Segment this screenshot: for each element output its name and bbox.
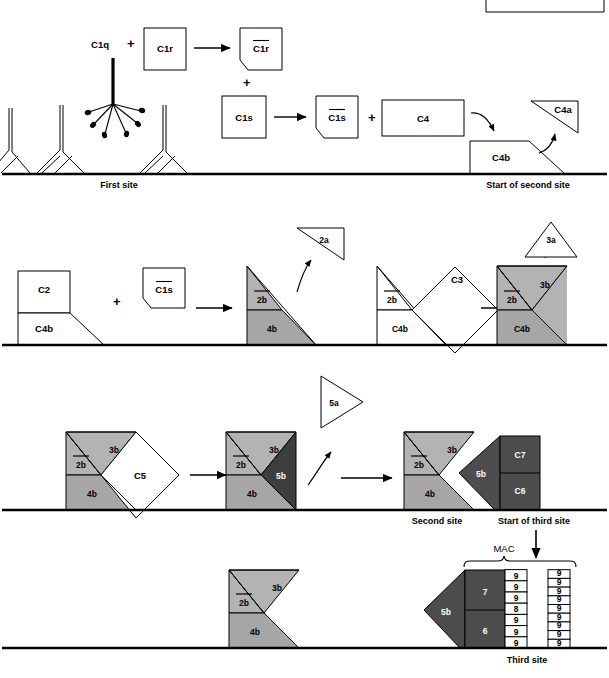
c1s-activated-row2-label: C1s — [155, 284, 172, 295]
c4b2b3b-complex: 2b 3b C4b — [497, 266, 567, 345]
arrow-c4b-to-c4a — [539, 134, 555, 153]
c4b-label: C4b — [492, 152, 510, 163]
c2-label: C2 — [38, 284, 50, 295]
plus-sign-2: + — [243, 75, 251, 90]
c5-label: C5 — [134, 470, 147, 481]
c3b-label-row3a: 3b — [109, 445, 119, 455]
complement-cascade-figure: C1q + C1r C1r + C1s C1s — [0, 0, 609, 678]
top-right-box-fragment — [486, 0, 604, 12]
c4a-fragment: C4a — [531, 101, 578, 133]
c2b-label-row3b: 2b — [236, 460, 246, 470]
figure-canvas: C1q + C1r C1r + C1s C1s — [0, 0, 609, 678]
row3-group: 2b 3b 4b C5 2b 3b 4b 5b 5a — [2, 376, 607, 558]
c1s-box: C1s — [222, 96, 266, 138]
c3b-label-row3c: 3b — [447, 445, 457, 455]
row4-group: 2b 3b 4b MAC 5b 7 6 9998999 999999999 Th… — [2, 543, 607, 665]
mac-c9-cell-label: 9 — [514, 571, 519, 581]
mac-c9-cell-label: 9 — [514, 593, 519, 603]
c1s-activated-row2: C1s — [143, 268, 185, 308]
c4b-label-row2c: C4b — [514, 324, 530, 334]
c5b-label-row3c: 5b — [476, 469, 486, 479]
c1s-activated-label: C1s — [328, 112, 345, 123]
c2b-label-row2c: 2b — [507, 295, 517, 305]
row1-group: C1q + C1r C1r + C1s C1s — [0, 28, 607, 190]
c4b-label-row2b: C4b — [392, 324, 408, 334]
c2b-label-row4: 2b — [239, 598, 249, 608]
c5b-label-row3b: 5b — [276, 471, 286, 481]
c4b-label-row3b: 4b — [247, 489, 257, 499]
c6-label-row3: C6 — [515, 486, 526, 496]
c2a-label: 2a — [319, 235, 329, 245]
c4b-label-row3c: 4b — [425, 489, 435, 499]
start-third-site-label: Start of third site — [498, 516, 570, 526]
c2a-fragment: 2a — [297, 228, 344, 260]
c3b-label-row2: 3b — [540, 280, 550, 290]
c1s-label: C1s — [235, 112, 252, 123]
c4a-label: C4a — [554, 104, 572, 115]
plus-sign-row2: + — [113, 294, 121, 309]
c1q-label: C1q — [91, 39, 109, 50]
mac-c9-cell-label: 8 — [514, 604, 519, 614]
c1q-molecule — [84, 58, 146, 139]
start-second-site-label: Start of second site — [486, 180, 570, 190]
c1r-label: C1r — [157, 43, 173, 54]
first-site-label: First site — [100, 180, 138, 190]
c7-label-row4: 7 — [483, 587, 488, 597]
c5b-cleavage-complex: 2b 3b 4b 5b — [226, 432, 296, 510]
mac-c5b67-core: 5b 7 6 — [424, 570, 505, 648]
c6-label-row4: 6 — [483, 626, 488, 636]
mac-c9-cell-label: 9 — [557, 638, 562, 648]
c3a-fragment: 3a — [525, 222, 577, 257]
c4b2b-complex: 2b 4b — [247, 266, 316, 345]
mac-c9-cell-label: 9 — [514, 638, 519, 648]
c5a-label: 5a — [329, 398, 339, 408]
c4b-label-row4: 4b — [250, 627, 260, 637]
c4b-complex-label-row2: 4b — [267, 324, 277, 334]
c7-label-row3: C7 — [515, 450, 526, 460]
c2b-label-row3a: 2b — [76, 460, 86, 470]
mac-brace — [464, 556, 576, 567]
mac-c9-cell-label: 9 — [514, 627, 519, 637]
c5-binding-complex: 2b 3b 4b C5 — [66, 432, 179, 518]
c2b-label-row2: 2b — [257, 295, 267, 305]
second-site-label: Second site — [412, 516, 463, 526]
c4b-deposit: C4b — [470, 141, 565, 174]
c1r-activated-shape: C1r — [240, 28, 282, 70]
c3a-label: 3a — [546, 235, 556, 245]
c1s-activated-shape: C1s — [316, 96, 358, 138]
mac-c9-cell-label: 9 — [514, 582, 519, 592]
c4b-row2-label: C4b — [35, 323, 53, 334]
third-site-start-complex: 5b C7 C6 — [459, 436, 540, 510]
mac-c9-column-1: 9998999 — [505, 570, 527, 648]
row4-left-complex: 2b 3b 4b — [229, 570, 299, 648]
antibody-group — [0, 105, 187, 173]
c1r-box: C1r — [144, 28, 186, 70]
arrow-to-c2a — [297, 260, 311, 292]
c5a-fragment: 5a — [321, 376, 363, 428]
c2b-label-row2b: 2b — [387, 295, 397, 305]
c3b-label-row4: 3b — [272, 583, 282, 593]
plus-sign-1: + — [127, 36, 135, 51]
c4-box: C4 — [382, 100, 464, 136]
c2b-label-row3c: 2b — [414, 460, 424, 470]
mac-c9-column-2: 999999999 — [548, 568, 570, 648]
arrow-to-c5a — [308, 452, 331, 485]
c3-label: C3 — [451, 274, 463, 285]
third-site-label: Third site — [507, 655, 548, 665]
c3b-label-row3b: 3b — [269, 445, 279, 455]
c4-label: C4 — [417, 113, 430, 124]
row2-group: C2 C4b + C1s 2b 4b 2a — [2, 222, 607, 353]
plus-sign-3: + — [368, 110, 376, 125]
mac-c9-cell-label: 9 — [514, 615, 519, 625]
c3-binding: C3 2b C4b — [377, 266, 498, 353]
c5b-label-row4: 5b — [441, 607, 451, 617]
c2-c4b-stack: C2 C4b — [18, 271, 104, 345]
c1r-activated-label: C1r — [253, 43, 269, 54]
arrow-c4-to-c4b — [471, 113, 494, 131]
mac-label: MAC — [493, 543, 514, 554]
c4b-label-row3a: 4b — [87, 489, 97, 499]
